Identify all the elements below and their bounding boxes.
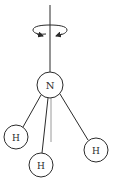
- atom-n-label: N: [46, 80, 55, 91]
- atom-h2: H: [29, 153, 53, 177]
- ammonia-rotation-diagram: N H H H: [0, 0, 118, 186]
- atom-h1: H: [4, 125, 28, 149]
- bond-n-h1: [23, 95, 41, 127]
- bond-n-h2: [42, 98, 48, 153]
- atom-h3: H: [84, 138, 108, 162]
- bond-n-h3: [60, 94, 88, 140]
- atom-n: N: [37, 72, 63, 98]
- atom-h2-label: H: [37, 161, 45, 171]
- bonds: [23, 94, 88, 153]
- atom-h1-label: H: [12, 133, 20, 143]
- atom-h3-label: H: [92, 146, 100, 156]
